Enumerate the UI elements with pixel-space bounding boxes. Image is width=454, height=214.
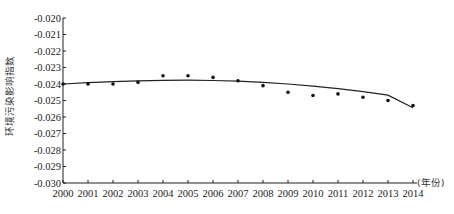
- x-tick-label: 2003: [128, 188, 149, 199]
- x-tick-label: 2013: [378, 188, 399, 199]
- data-point: [161, 74, 165, 78]
- x-tick-label: 2010: [303, 188, 324, 199]
- data-point: [336, 92, 340, 96]
- x-tick-label: 2014: [403, 188, 425, 199]
- data-point: [261, 84, 265, 88]
- x-tick-label: 2001: [78, 188, 99, 199]
- y-axis-title: 环境污染影响指数: [4, 56, 15, 136]
- x-tick-label: 2008: [253, 188, 274, 199]
- y-tick-label: -0.021: [34, 29, 61, 40]
- x-tick-label: 2012: [353, 188, 374, 199]
- x-tick-label: 2004: [153, 188, 175, 199]
- x-axis-title: (年份): [417, 177, 444, 188]
- data-points: [61, 74, 415, 107]
- y-tick-label: -0.020: [34, 13, 61, 24]
- x-tick-label: 2009: [278, 188, 299, 199]
- x-tick-label: 2006: [203, 188, 224, 199]
- data-point: [361, 95, 365, 99]
- data-point: [236, 79, 240, 83]
- y-tick-label: -0.030: [34, 178, 61, 189]
- x-tick-label: 2000: [53, 188, 74, 199]
- y-tick-label: -0.025: [34, 95, 61, 106]
- data-point: [286, 90, 290, 94]
- data-point: [186, 74, 190, 78]
- y-tick-label: -0.024: [34, 79, 62, 90]
- x-tick-label: 2005: [178, 188, 199, 199]
- data-point: [61, 82, 65, 86]
- y-tick-label: -0.026: [34, 112, 61, 123]
- x-tick-label: 2011: [328, 188, 349, 199]
- y-tick-label: -0.029: [34, 161, 61, 172]
- data-point: [411, 104, 415, 108]
- data-point: [211, 76, 215, 80]
- data-point: [86, 82, 90, 86]
- data-point: [136, 81, 140, 85]
- chart: -0.020-0.021-0.022-0.023-0.024-0.025-0.0…: [0, 0, 454, 214]
- y-tick-label: -0.027: [34, 128, 61, 139]
- x-tick-label: 2007: [228, 188, 249, 199]
- trend-line: [63, 80, 413, 108]
- y-tick-label: -0.022: [34, 46, 61, 57]
- y-axis-ticks: -0.020-0.021-0.022-0.023-0.024-0.025-0.0…: [34, 13, 66, 189]
- data-point: [311, 94, 315, 98]
- x-tick-label: 2002: [103, 188, 124, 199]
- data-point: [111, 82, 115, 86]
- y-tick-label: -0.028: [34, 145, 61, 156]
- y-tick-label: -0.023: [34, 62, 61, 73]
- data-point: [386, 99, 390, 103]
